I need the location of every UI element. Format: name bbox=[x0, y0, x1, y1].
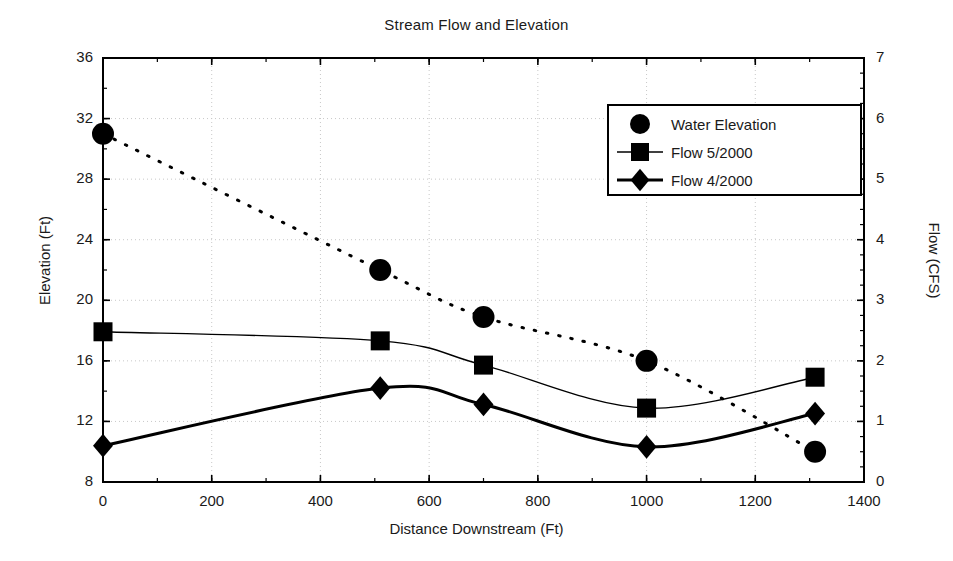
x-tick-label: 800 bbox=[508, 492, 568, 509]
chart-figure: Stream Flow and Elevation Elevation (Ft)… bbox=[0, 0, 953, 561]
y-right-tick-label: 1 bbox=[876, 411, 916, 428]
y-left-tick-label: 8 bbox=[53, 472, 93, 489]
legend-marker-square-icon bbox=[609, 138, 671, 166]
plot-canvas bbox=[0, 0, 953, 561]
data-point-circle bbox=[473, 306, 495, 328]
x-tick-label: 1400 bbox=[834, 492, 894, 509]
data-point-square bbox=[637, 399, 656, 418]
legend: Water ElevationFlow 5/2000Flow 4/2000 bbox=[607, 104, 862, 196]
y-left-tick-label: 24 bbox=[53, 230, 93, 247]
y-axis-right-title: Flow (CFS) bbox=[926, 161, 943, 361]
legend-item-0[interactable]: Water Elevation bbox=[609, 110, 864, 138]
data-point-diamond bbox=[370, 376, 390, 400]
y-left-tick-label: 32 bbox=[53, 109, 93, 126]
data-point-square bbox=[474, 356, 493, 375]
x-tick-label: 0 bbox=[73, 492, 133, 509]
legend-marker-diamond-icon bbox=[609, 166, 671, 194]
legend-item-1[interactable]: Flow 5/2000 bbox=[609, 138, 864, 166]
data-point-circle bbox=[636, 350, 658, 372]
y-left-tick-label: 36 bbox=[53, 48, 93, 65]
legend-label: Water Elevation bbox=[671, 116, 776, 133]
y-left-tick-label: 16 bbox=[53, 351, 93, 368]
data-point-square bbox=[94, 322, 113, 341]
x-tick-label: 200 bbox=[182, 492, 242, 509]
legend-item-2[interactable]: Flow 4/2000 bbox=[609, 166, 864, 194]
data-point-square bbox=[806, 368, 825, 387]
y-left-tick-label: 12 bbox=[53, 411, 93, 428]
y-right-tick-label: 4 bbox=[876, 230, 916, 247]
y-left-tick-label: 20 bbox=[53, 290, 93, 307]
y-right-tick-label: 5 bbox=[876, 169, 916, 186]
data-point-diamond bbox=[637, 435, 657, 459]
series-line-2 bbox=[103, 386, 815, 447]
y-right-tick-label: 3 bbox=[876, 290, 916, 307]
y-right-tick-label: 6 bbox=[876, 109, 916, 126]
data-point-circle bbox=[804, 441, 826, 463]
legend-label: Flow 5/2000 bbox=[671, 144, 753, 161]
data-point-circle bbox=[369, 259, 391, 281]
legend-label: Flow 4/2000 bbox=[671, 172, 753, 189]
data-point-circle bbox=[92, 123, 114, 145]
data-point-diamond bbox=[93, 434, 113, 458]
data-point-square bbox=[371, 331, 390, 350]
x-axis-title: Distance Downstream (Ft) bbox=[0, 520, 953, 537]
legend-marker-circle-icon bbox=[609, 110, 671, 138]
y-left-tick-label: 28 bbox=[53, 169, 93, 186]
x-tick-label: 600 bbox=[399, 492, 459, 509]
y-right-tick-label: 7 bbox=[876, 48, 916, 65]
data-point-diamond bbox=[474, 393, 494, 417]
x-tick-label: 400 bbox=[290, 492, 350, 509]
y-axis-left-title: Elevation (Ft) bbox=[36, 161, 53, 361]
x-tick-label: 1000 bbox=[617, 492, 677, 509]
x-tick-label: 1200 bbox=[725, 492, 785, 509]
data-point-diamond bbox=[805, 402, 825, 426]
y-right-tick-label: 2 bbox=[876, 351, 916, 368]
y-right-tick-label: 0 bbox=[876, 472, 916, 489]
